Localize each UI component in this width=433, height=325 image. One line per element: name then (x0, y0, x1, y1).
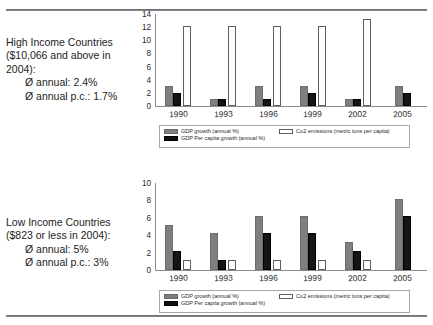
y-axis-tick: 6 (147, 62, 151, 71)
bar-group (290, 183, 335, 270)
chart-legend: GDP growth (annual %) GDP Per capita gro… (159, 290, 410, 313)
x-axis-label: 1999 (290, 108, 335, 120)
x-axis-label: 1999 (290, 272, 335, 284)
y-axis-tick: 14 (142, 10, 151, 19)
bar-groups (156, 14, 425, 106)
caption-line: Low Income Countries (6, 216, 130, 229)
legend-swatch-gdp-growth-icon (164, 129, 178, 134)
x-axis-label: 2005 (380, 108, 425, 120)
x-axis-label: 1990 (156, 272, 201, 284)
bar-groups (156, 183, 425, 270)
legend-item-gdp-per-capita: GDP Per capita growth (annual %) (164, 300, 265, 306)
x-axis-label: 2002 (335, 272, 380, 284)
legend-col-left: GDP growth (annual %) GDP Per capita gro… (164, 128, 265, 141)
legend-swatch-gdp-per-capita-icon (164, 301, 178, 306)
y-axis-tick: 0 (147, 102, 151, 111)
y-axis-tick: 4 (147, 231, 151, 240)
bar-co2 (228, 260, 236, 270)
legend-label: GDP growth (annual %) (181, 128, 239, 134)
y-axis-tick: 8 (147, 196, 151, 205)
legend-col-right: Co2 emissions (metric tons per capita) (279, 128, 390, 134)
bar-group (335, 14, 380, 106)
caption-stat-annual: Ø annual: 2.4% (6, 76, 130, 89)
y-axis: 02468101214 (131, 14, 155, 107)
legend-item-gdp-growth: GDP growth (annual %) (164, 128, 265, 134)
bar-gdp (300, 216, 308, 270)
bar-pc (263, 233, 271, 270)
bar-group (156, 183, 201, 270)
bar-group (335, 183, 380, 270)
caption-low-income: Low Income Countries ($823 or less in 20… (6, 216, 130, 270)
x-axis-label: 1993 (201, 108, 246, 120)
bar-pc (403, 216, 411, 270)
bar-group (246, 183, 291, 270)
legend-label: GDP Per capita growth (annual %) (181, 300, 265, 306)
legend-item-gdp-per-capita: GDP Per capita growth (annual %) (164, 135, 265, 141)
bar-pc (308, 233, 316, 270)
y-axis-tick: 6 (147, 213, 151, 222)
bar-pc (308, 93, 316, 106)
x-axis-label: 1996 (245, 272, 290, 284)
page-top-rule (6, 9, 427, 11)
bar-pc (403, 93, 411, 106)
caption-stat-per-capita: Ø annual p.c.: 1.7% (6, 90, 130, 103)
legend-label: Co2 emissions (metric tons per capita) (296, 293, 390, 299)
bar-gdp (210, 99, 218, 106)
bar-co2 (273, 260, 281, 270)
bar-pc (218, 260, 226, 270)
bar-pc (353, 99, 361, 106)
plot-area: 02468101214 (131, 14, 427, 107)
bar-pc (173, 93, 181, 106)
page-root: High Income Countries ($10,066 and above… (0, 0, 433, 325)
x-axis-labels: 199019931996199920022005 (156, 109, 425, 119)
x-axis-label: 2005 (380, 272, 425, 284)
x-axis-label: 1993 (201, 272, 246, 284)
x-axis-line (155, 270, 427, 271)
bar-gdp (210, 233, 218, 270)
caption-stat-per-capita: Ø annual p.c.: 3% (6, 256, 130, 269)
legend-item-gdp-growth: GDP growth (annual %) (164, 293, 265, 299)
legend-item-co2: Co2 emissions (metric tons per capita) (279, 128, 390, 134)
legend-col-left: GDP growth (annual %) GDP Per capita gro… (164, 293, 265, 306)
bar-gdp (255, 216, 263, 270)
bar-group (156, 14, 201, 106)
bar-gdp (345, 242, 353, 270)
bar-co2 (183, 26, 191, 106)
legend-col-right: Co2 emissions (metric tons per capita) (279, 293, 390, 299)
y-axis-tick: 2 (147, 248, 151, 257)
bar-gdp (300, 86, 308, 106)
y-axis-tick: 10 (142, 36, 151, 45)
bar-pc (353, 251, 361, 270)
bar-gdp (395, 199, 403, 270)
y-axis-tick: 12 (142, 23, 151, 32)
bar-pc (263, 99, 271, 106)
chart-legend: GDP growth (annual %) GDP Per capita gro… (159, 125, 410, 148)
x-axis-label: 1990 (156, 108, 201, 120)
bar-pc (173, 251, 181, 270)
bar-co2 (183, 260, 191, 270)
x-axis-labels: 199019931996199920022005 (156, 273, 425, 283)
bar-group (246, 14, 291, 106)
y-axis-tick: 10 (142, 179, 151, 188)
bar-gdp (255, 86, 263, 106)
bar-co2 (228, 26, 236, 106)
legend-label: Co2 emissions (metric tons per capita) (296, 128, 390, 134)
y-axis-tick: 2 (147, 88, 151, 97)
x-axis-label: 2002 (335, 108, 380, 120)
legend-label: GDP growth (annual %) (181, 293, 239, 299)
bar-gdp (165, 225, 173, 270)
caption-line: High Income Countries (6, 36, 130, 49)
y-axis-tick: 8 (147, 49, 151, 58)
legend-swatch-co2-icon (279, 129, 293, 134)
bar-group (380, 14, 425, 106)
bar-pc (218, 99, 226, 106)
y-axis-tick: 4 (147, 75, 151, 84)
caption-line: 2004): (6, 63, 130, 76)
bar-gdp (395, 86, 403, 106)
bar-group (201, 183, 246, 270)
bar-co2 (318, 260, 326, 270)
legend-swatch-gdp-per-capita-icon (164, 136, 178, 141)
legend-swatch-co2-icon (279, 294, 293, 299)
x-axis-line (155, 106, 427, 107)
caption-stat-annual: Ø annual: 5% (6, 243, 130, 256)
